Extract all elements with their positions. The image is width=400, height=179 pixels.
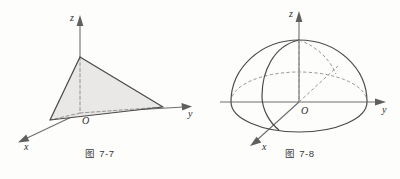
meridian-front (262, 40, 299, 130)
origin-label: O (82, 115, 89, 126)
y-axis-label: y (381, 104, 387, 115)
z-axis-label: z (69, 12, 74, 23)
origin-label: O (301, 105, 308, 116)
z-axis-label: z (288, 8, 293, 19)
tetrahedron-face (50, 57, 163, 120)
figure-7-7-caption: 图 7-7 (0, 146, 200, 160)
dome-base-front-arc (231, 102, 367, 132)
figure-7-8-caption: 图 7-8 (200, 146, 400, 160)
figure-7-7: z y x O 图 7-7 (0, 0, 200, 179)
figure-7-8: z y x O 图 7-8 (200, 0, 400, 179)
z-axis (296, 11, 303, 102)
y-axis-label: y (187, 108, 193, 119)
figure-7-8-canvas: z y x O (200, 0, 400, 150)
meridian-back (299, 40, 336, 74)
figure-page: z y x O 图 7-7 (0, 0, 400, 179)
figure-7-7-canvas: z y x O (0, 0, 200, 150)
